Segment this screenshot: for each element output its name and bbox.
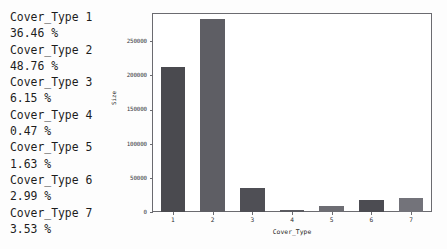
y-tick-mark bbox=[150, 212, 153, 213]
x-tick-label: 5 bbox=[320, 216, 344, 223]
y-tick-label: 100000 bbox=[101, 141, 147, 147]
x-tick-label: 3 bbox=[240, 216, 264, 223]
x-tick-mark bbox=[292, 212, 293, 215]
x-tick-label: 1 bbox=[161, 216, 185, 223]
x-tick-label: 4 bbox=[280, 216, 304, 223]
bar bbox=[399, 198, 424, 212]
x-tick-mark bbox=[411, 212, 412, 215]
y-tick-label: 250000 bbox=[101, 38, 147, 44]
x-tick-mark bbox=[213, 212, 214, 215]
x-tick-mark bbox=[332, 212, 333, 215]
y-tick-mark bbox=[150, 41, 153, 42]
y-tick-label: 0 bbox=[101, 209, 147, 215]
y-tick-mark bbox=[150, 144, 153, 145]
y-tick-mark bbox=[150, 75, 153, 76]
bar bbox=[161, 67, 186, 212]
bar-chart: 0500001000001500002000002500001234567 Co… bbox=[0, 0, 447, 249]
x-tick-mark bbox=[173, 212, 174, 215]
bar bbox=[200, 19, 225, 212]
plot-area bbox=[153, 14, 431, 212]
x-tick-mark bbox=[371, 212, 372, 215]
x-tick-label: 6 bbox=[359, 216, 383, 223]
y-tick-label: 200000 bbox=[101, 72, 147, 78]
bar bbox=[359, 200, 384, 212]
x-tick-label: 2 bbox=[201, 216, 225, 223]
x-tick-mark bbox=[252, 212, 253, 215]
y-tick-mark bbox=[150, 178, 153, 179]
x-tick-label: 7 bbox=[399, 216, 423, 223]
figure-root: Cover_Type 136.46 %Cover_Type 248.76 %Co… bbox=[0, 0, 447, 249]
y-tick-label: 50000 bbox=[101, 175, 147, 181]
y-axis-title: Size bbox=[111, 91, 117, 105]
x-axis-title: Cover_Type bbox=[152, 228, 432, 236]
y-tick-label: 150000 bbox=[101, 106, 147, 112]
y-tick-mark bbox=[150, 110, 153, 111]
bar bbox=[240, 188, 265, 212]
